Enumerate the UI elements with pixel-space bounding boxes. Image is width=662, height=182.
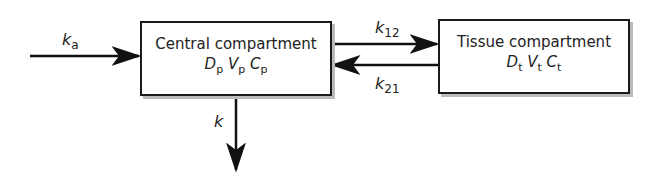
sub: p	[216, 63, 223, 76]
var: C	[547, 53, 557, 71]
var: V	[228, 55, 238, 73]
tissue-title: Tissue compartment	[440, 33, 628, 51]
k21-label: k21	[375, 74, 400, 96]
var: C	[250, 55, 260, 73]
central-compartment: Central compartment Dp Vp Cp	[140, 21, 332, 96]
var: D	[205, 55, 217, 73]
var: V	[527, 53, 537, 71]
tissue-compartment: Tissue compartment Dt Vt Ct	[438, 19, 630, 94]
two-compartment-diagram: Central compartment Dp Vp Cp Tissue comp…	[0, 0, 662, 182]
k-label: k	[214, 112, 223, 131]
sub: t	[518, 61, 522, 74]
k12-label: k12	[375, 18, 400, 40]
sub: p	[238, 63, 245, 76]
var: D	[507, 53, 519, 71]
sub: t	[557, 61, 561, 74]
sub: p	[260, 63, 267, 76]
central-vars: Dp Vp Cp	[142, 55, 330, 76]
tissue-vars: Dt Vt Ct	[440, 53, 628, 74]
central-title: Central compartment	[142, 35, 330, 53]
sub: t	[538, 61, 542, 74]
ka-label: ka	[62, 30, 79, 52]
